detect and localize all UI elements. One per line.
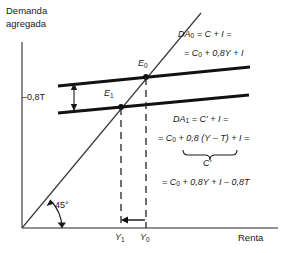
e1-sub: 1 <box>110 92 114 99</box>
x-tick-label-y1: Y1 <box>115 232 125 243</box>
angle-arc-arrowhead-upper <box>47 200 55 206</box>
shift-label: –0,8T <box>22 92 45 103</box>
y1-sub: 1 <box>121 236 125 243</box>
da0-rhs: = C + I = <box>197 29 232 39</box>
da1-equation-line1: DA1 = C′ + I = <box>173 114 228 126</box>
y-axis-title-line1: Demanda <box>6 5 47 16</box>
angle-arc-arrowhead-lower <box>58 223 67 229</box>
da1-lhs-sub: 1 <box>186 117 190 124</box>
angle-label: 45° <box>55 200 69 211</box>
x-axis-title: Renta <box>238 232 263 243</box>
x-tick-label-y0: Y0 <box>140 232 150 243</box>
brace-label-c-prime: C′ <box>203 158 211 169</box>
equilibrium-label-e1: E1 <box>104 88 114 99</box>
da1-lhs: DA <box>173 114 186 124</box>
income-decrease-arrowhead <box>121 217 128 224</box>
da0-l2-rest: + 0,8Y + I <box>205 48 244 58</box>
da1-l3-sub: 0 <box>176 180 180 187</box>
da1-l2-rest: + 0,8 (Y – T) + I = <box>179 133 250 143</box>
da0-l2-sub: 0 <box>198 51 202 58</box>
y0-sub: 0 <box>146 236 150 243</box>
da1-l2-text: = C <box>158 133 172 143</box>
shift-label-text: –0,8T <box>22 92 45 102</box>
da0-l2-text: = C <box>184 48 198 58</box>
e0-sub: 0 <box>144 62 148 69</box>
da0-equation-line1: DA0 = C + I = <box>178 29 232 41</box>
diagram-canvas <box>0 0 287 253</box>
da1-rhs: = C′ + I = <box>192 114 228 124</box>
da1-l3-text: = C <box>162 177 176 187</box>
da1-equation-line2: = C0 + 0,8 (Y – T) + I = <box>158 133 249 145</box>
y-axis-title-line2: agregada <box>6 18 46 29</box>
da1-equation-line3: = C0 + 0,8Y + I – 0,8T <box>162 177 249 189</box>
da0-lhs-sub: 0 <box>191 32 195 39</box>
da0-lhs: DA <box>178 29 191 39</box>
equilibrium-label-e0: E0 <box>138 58 148 69</box>
da1-l3-rest: + 0,8Y + I – 0,8T <box>183 177 250 187</box>
da0-equation-line2: = C0 + 0,8Y + I <box>184 48 243 60</box>
da1-l2-sub: 0 <box>172 136 176 143</box>
keynesian-cross-figure: Demanda agregada Renta 45° –0,8T E0 E1 Y… <box>0 0 287 253</box>
da1-line <box>58 95 249 113</box>
